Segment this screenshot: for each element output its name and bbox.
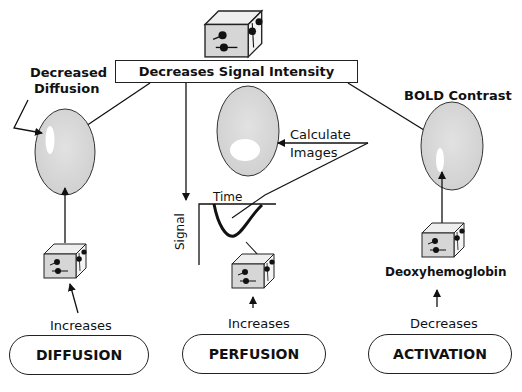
perfusion-pill: PERFUSION xyxy=(182,334,326,374)
left-change-label: Increases xyxy=(50,319,112,332)
decreases-signal-intensity-box: Decreases Signal Intensity xyxy=(115,60,358,83)
activation-pill: ACTIVATION xyxy=(368,334,512,374)
diffusion-label: DIFFUSION xyxy=(36,347,122,363)
signal-axis-label: Signal xyxy=(174,213,186,250)
right-change-label: Decreases xyxy=(410,317,478,330)
left-title-line1: Decreased xyxy=(30,66,107,79)
molecule-cube-icon xyxy=(205,11,263,57)
mri-contrast-diagram: Decreases Signal Intensity Decreased Dif… xyxy=(0,0,522,392)
perfusion-label: PERFUSION xyxy=(209,346,299,362)
bold-contrast-title: BOLD Contrast xyxy=(404,89,512,102)
left-title-line2: Diffusion xyxy=(34,82,99,95)
images-label: Images xyxy=(290,146,338,159)
activation-label: ACTIVATION xyxy=(393,346,487,362)
deoxyhemoglobin-label: Deoxyhemoglobin xyxy=(385,266,507,278)
calculate-label: Calculate xyxy=(290,128,351,141)
diffusion-pill: DIFFUSION xyxy=(9,335,149,375)
time-axis-label: Time xyxy=(213,191,242,203)
center-change-label: Increases xyxy=(228,317,290,330)
header-label: Decreases Signal Intensity xyxy=(139,64,335,79)
